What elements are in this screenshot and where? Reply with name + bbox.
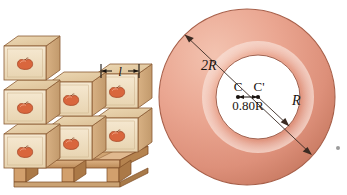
center-label-C-prime: C' bbox=[253, 79, 264, 94]
box-top-left bbox=[4, 36, 60, 80]
annulus-panel: 2R R C C' 0.80R bbox=[155, 0, 347, 195]
box-row-top bbox=[4, 36, 60, 80]
boxes-illustration: | ---------- --> l bbox=[0, 0, 160, 195]
pallet-bottom-board bbox=[14, 182, 120, 187]
annulus-illustration: 2R R C C' 0.80R bbox=[155, 0, 347, 195]
center-label-C: C bbox=[234, 79, 243, 94]
box-bottom-left bbox=[4, 124, 60, 168]
figure-container: | ---------- --> l bbox=[0, 0, 347, 195]
offset-label: 0.80R bbox=[232, 98, 264, 113]
box-middle-left bbox=[4, 80, 60, 124]
boxes-panel: | ---------- --> l bbox=[0, 0, 160, 195]
scan-speck-icon bbox=[336, 146, 340, 150]
radius-2R-label: 2R bbox=[201, 58, 217, 73]
radius-R-label: R bbox=[291, 93, 301, 108]
dimension-l-label: l bbox=[118, 64, 122, 79]
